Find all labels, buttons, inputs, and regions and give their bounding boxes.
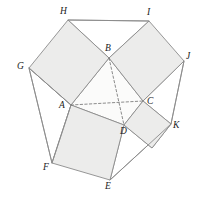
vertex-label-h: H	[60, 7, 67, 17]
vertex-label-d: D	[120, 127, 127, 137]
vertex-label-k: K	[173, 121, 179, 131]
vertex-label-e: E	[105, 182, 111, 192]
vertex-label-f: F	[43, 163, 49, 173]
geometry-canvas	[0, 0, 203, 199]
geometry-figure: H I B G J A C K D F E	[0, 0, 203, 199]
vertex-label-i: I	[147, 8, 150, 18]
vertex-label-c: C	[147, 97, 153, 107]
vertex-label-j: J	[186, 52, 190, 62]
vertex-label-b: B	[105, 44, 111, 54]
vertex-label-a: A	[59, 101, 65, 111]
vertex-label-g: G	[17, 62, 24, 72]
